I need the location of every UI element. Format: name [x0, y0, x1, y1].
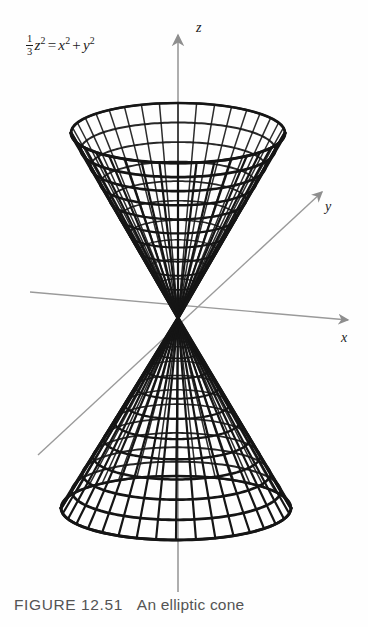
coordinate-axes	[30, 35, 348, 592]
figure-caption-label: FIGURE 12.51	[14, 596, 123, 613]
figure-caption-text: An elliptic cone	[137, 596, 244, 613]
figure-page: 1 3 z2=x2+y2 z y x FIGURE 12.51An ellipt…	[0, 0, 368, 627]
elliptic-cone-graphic	[0, 0, 368, 627]
y-axis-label: y	[325, 199, 331, 215]
x-axis-label: x	[341, 330, 347, 346]
z-axis-label: z	[196, 20, 201, 36]
cone-wireframe-mesh	[61, 103, 291, 540]
figure-caption: FIGURE 12.51An elliptic cone	[14, 596, 244, 614]
